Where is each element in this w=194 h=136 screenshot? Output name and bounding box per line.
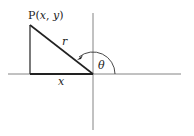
hypotenuse-label: r <box>62 35 68 48</box>
angle-label: θ <box>98 59 105 72</box>
hypotenuse-r <box>30 25 93 74</box>
point-label: P(x, y) <box>28 9 63 22</box>
polar-diagram: P(x, y) r x θ <box>0 0 194 136</box>
base-label: x <box>58 75 65 88</box>
angle-arc <box>79 52 115 74</box>
